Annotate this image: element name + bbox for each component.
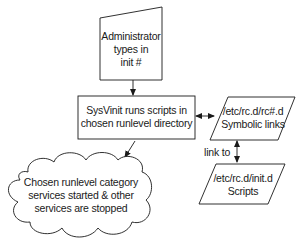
admin-input-label: Administrator types in init # [100, 30, 162, 69]
rc-links-label: /etc/rc.d/rc#.d Symbolic links [214, 105, 292, 131]
services-result-label: Chosen runlevel category services starte… [18, 176, 144, 215]
init-scripts-label: /etc/rc.d/init.d Scripts [204, 172, 282, 198]
arrow-sysvinit-to-cloud [125, 141, 135, 157]
sysvinit-label: SysVinit runs scripts in chosen runlevel… [78, 104, 195, 130]
link-to-label: link to [204, 146, 234, 159]
